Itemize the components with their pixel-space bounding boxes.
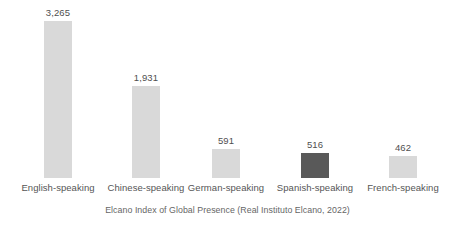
bar-spanish[interactable] — [301, 153, 329, 178]
bar-value-chinese: 1,931 — [134, 72, 158, 83]
bar-group-german: 591 — [181, 0, 271, 178]
bar-group-chinese: 1,931 — [101, 0, 191, 178]
bar-german[interactable] — [212, 149, 240, 178]
bar-value-german: 591 — [218, 135, 234, 146]
bar-chart: 3,265 1,931 591 516 462 English-speaking… — [0, 0, 455, 227]
category-label-french: French-speaking — [348, 182, 455, 193]
plot-area: 3,265 1,931 591 516 462 — [0, 0, 455, 178]
bar-group-english: 3,265 — [13, 0, 103, 178]
bar-group-french: 462 — [358, 0, 448, 178]
bar-french[interactable] — [389, 156, 417, 178]
bar-value-english: 3,265 — [46, 7, 70, 18]
bar-chinese[interactable] — [132, 86, 160, 178]
bar-value-french: 462 — [395, 142, 411, 153]
bar-group-spanish: 516 — [270, 0, 360, 178]
category-axis: English-speaking Chinese-speaking German… — [0, 182, 455, 196]
bar-value-spanish: 516 — [307, 139, 323, 150]
bar-english[interactable] — [44, 21, 72, 178]
chart-caption: Elcano Index of Global Presence (Real In… — [0, 205, 455, 215]
